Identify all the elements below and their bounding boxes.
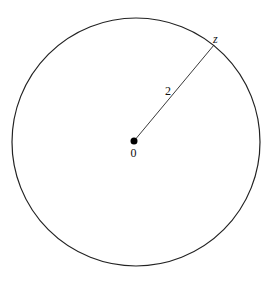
radius-label: 2 [165, 84, 171, 98]
point-label: z [212, 32, 218, 46]
radius-segment [134, 45, 214, 141]
center-point [131, 138, 138, 145]
circle-diagram: 0 z 2 [0, 0, 269, 281]
center-label: 0 [131, 146, 137, 160]
